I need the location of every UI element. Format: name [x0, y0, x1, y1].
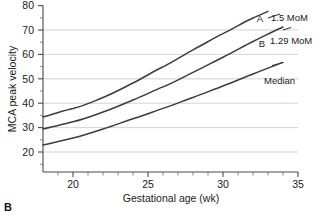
series-line-a [43, 11, 268, 117]
y-tick-label-30: 30 [22, 121, 34, 133]
x-tick-label-20: 20 [67, 178, 79, 190]
y-tick-label-50: 50 [22, 73, 34, 85]
series-annotation-a: 1.5 MoM [271, 12, 308, 23]
y-tick-label-60: 60 [22, 48, 34, 60]
y-tick-label-70: 70 [22, 24, 34, 36]
series-marker-a: A [257, 13, 264, 24]
y-axis-title: MCA peak velocity [6, 45, 18, 132]
y-tick-label-40: 40 [22, 97, 34, 109]
x-tick-label-25: 25 [142, 178, 154, 190]
y-tick-label-80: 80 [22, 0, 34, 11]
chart-svg: 80 70 60 50 40 30 20 20 25 30 35 Gestati… [0, 0, 318, 215]
x-tick-label-35: 35 [292, 178, 304, 190]
panel-label: B [4, 201, 12, 213]
series-annotation-b: 1.29 MoM [270, 35, 312, 46]
x-axis-title: Gestational age (wk) [123, 192, 219, 204]
series-annotation-median: Median [264, 75, 295, 86]
series-line-b [43, 27, 283, 129]
x-axis-major-ticks [73, 172, 298, 177]
y-tick-label-20: 20 [22, 146, 34, 158]
series-line-median [43, 62, 283, 144]
series-marker-b: B [259, 38, 265, 49]
chart-figure: 80 70 60 50 40 30 20 20 25 30 35 Gestati… [0, 0, 318, 215]
x-tick-label-30: 30 [217, 178, 229, 190]
y-axis-major-ticks [38, 6, 43, 152]
